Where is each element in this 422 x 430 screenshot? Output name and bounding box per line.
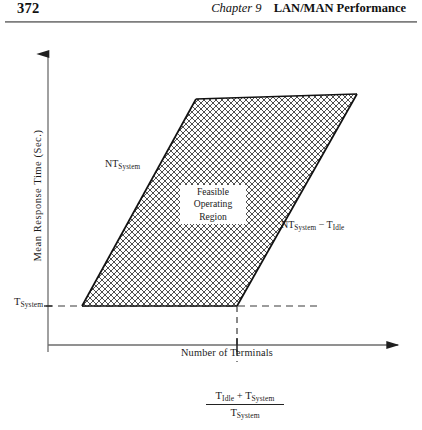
y-axis-tick-label: TSystem (14, 296, 43, 309)
figure-feasible-operating-region: Mean Response Time (Sec.) TSystem NTSyst… (0, 22, 422, 430)
book-page: 372 Chapter 9 LAN/MAN Performance (0, 0, 422, 430)
y-axis-label: Mean Response Time (Sec.) (32, 96, 43, 296)
running-header: 372 Chapter 9 LAN/MAN Performance (0, 0, 422, 22)
left-boundary-label-subscript: System (118, 163, 140, 171)
right-boundary-label-subscript-2: Idle (333, 224, 345, 232)
fraction-denominator-subscript: System (237, 411, 260, 420)
chapter-label: Chapter 9 (211, 1, 261, 15)
right-boundary-label-main: NT (281, 219, 294, 230)
y-axis-tick-label-subscript: System (20, 300, 43, 309)
x-axis-label: Number of Terminals (152, 348, 302, 359)
right-boundary-label: NTSystem − TIdle (281, 220, 344, 233)
x-axis-tick-fraction: TIdle + TSystem TSystem (185, 390, 305, 420)
fraction-numerator-term-a-subscript: Idle (222, 394, 234, 403)
region-label-line-3: Region (182, 211, 244, 223)
fraction-bar (206, 404, 284, 405)
right-boundary-label-minus: − T (316, 219, 333, 230)
region-label-line-1: Feasible (182, 186, 244, 198)
chapter-title: LAN/MAN Performance (274, 1, 406, 15)
left-boundary-label: NTSystem (105, 159, 140, 172)
right-boundary-label-subscript-1: System (294, 224, 316, 232)
fraction-numerator-term-b-subscript: System (252, 394, 275, 403)
left-boundary-label-main: NT (105, 158, 118, 169)
page-number: 372 (17, 0, 40, 17)
fraction-numerator: TIdle + TSystem (185, 390, 305, 404)
fraction-numerator-operator: + T (234, 390, 251, 401)
header-title: Chapter 9 LAN/MAN Performance (211, 1, 406, 16)
fraction-denominator: TSystem (185, 406, 305, 420)
region-label: Feasible Operating Region (180, 185, 246, 224)
figure-canvas (0, 22, 422, 430)
region-label-line-2: Operating (182, 198, 244, 210)
